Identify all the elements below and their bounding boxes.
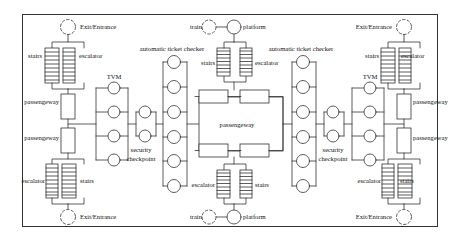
label-stairs-left-bottom: stairs: [80, 177, 94, 184]
escalator-left-bottom: [46, 164, 58, 198]
label-security-right-line1: security: [323, 146, 345, 153]
label-passengeway-left-bottom: passengeway: [24, 134, 59, 141]
label-stairs-center-bottom: stairs: [255, 181, 269, 188]
label-stairs-left-top: stairs: [28, 52, 42, 59]
escalator-left-top: [63, 48, 75, 83]
tvm-unit-left-1: [108, 82, 120, 94]
train-node-top: [202, 20, 216, 34]
label-security-left-line1: security: [131, 146, 153, 153]
checker-unit-left-6: [168, 180, 181, 193]
tvm-unit-left-2: [108, 106, 120, 118]
label-escalator-center-bottom: escalator: [192, 181, 216, 188]
checker-unit-right-6: [297, 180, 310, 193]
label-escalator-right-bottom: escalator: [358, 177, 382, 184]
tvm-unit-right-1: [364, 82, 376, 94]
label-exit-entrance-right-top: Exit/Entrance: [356, 23, 392, 30]
checker-unit-right-2: [297, 81, 310, 94]
passengeway-left-top: [61, 94, 75, 119]
security-unit-left-2: [139, 130, 151, 142]
tvm-unit-right-2: [364, 106, 376, 118]
label-checker-left: automatic ticket checker: [140, 45, 205, 52]
tvm-unit-left-3: [108, 130, 120, 142]
checker-unit-left-1: [168, 56, 181, 69]
label-exit-entrance-right-bottom: Exit/Entrance: [356, 213, 392, 220]
checker-unit-right-1: [297, 56, 310, 69]
checker-unit-left-4: [168, 131, 181, 144]
label-checker-right: automatic ticket checker: [269, 45, 334, 52]
station-topology-svg: Exit/Entrance stairs escalator passengew…: [0, 0, 460, 241]
label-passengeway-right-top: passengeway: [413, 98, 448, 105]
label-train-top: train: [190, 23, 203, 30]
label-stairs-right-top: stairs: [365, 52, 379, 59]
exit-entrance-node-left-top: [61, 20, 76, 35]
label-security-right-line2: checkpoint: [319, 155, 348, 162]
checker-unit-left-3: [168, 106, 181, 119]
checker-unit-left-2: [168, 81, 181, 94]
label-escalator-center-top: escalator: [255, 59, 279, 66]
exit-entrance-node-left-bottom: [61, 210, 76, 225]
checker-unit-right-3: [297, 106, 310, 119]
platform-node-bottom: [227, 210, 241, 224]
label-security-left-line2: checkpoint: [127, 155, 156, 162]
stairs-right-top: [381, 48, 395, 83]
diagram-canvas: Exit/Entrance stairs escalator passengew…: [0, 0, 460, 241]
security-unit-left-1: [139, 106, 151, 118]
label-escalator-left-top: escalator: [79, 52, 103, 59]
label-exit-entrance-left-bottom: Exit/Entrance: [80, 213, 116, 220]
platform-node-top: [227, 20, 241, 34]
train-node-bottom: [202, 210, 216, 224]
passengeway-center-box-top-left: [199, 90, 228, 103]
stairs-left-top: [45, 48, 59, 83]
label-passengeway-left-top: passengeway: [24, 98, 59, 105]
stairs-left-bottom: [62, 164, 76, 198]
label-escalator-left-bottom: escalator: [22, 177, 46, 184]
tvm-unit-right-4: [364, 154, 376, 166]
label-stairs-center-top: stairs: [201, 59, 215, 66]
exit-entrance-node-right-top: [397, 20, 412, 35]
escalator-right-bottom: [382, 164, 394, 198]
exit-entrance-node-right-bottom: [397, 210, 412, 225]
passengeway-center-box-top-right: [240, 90, 269, 103]
checker-unit-left-5: [168, 155, 181, 168]
security-unit-right-1: [327, 106, 339, 118]
tvm-unit-left-4: [108, 154, 120, 166]
label-tvm-left: TVM: [107, 73, 122, 80]
security-unit-right-2: [327, 130, 339, 142]
label-passengeway-right-bottom: passengeway: [413, 134, 448, 141]
label-train-bottom: train: [190, 213, 203, 220]
label-escalator-right-top: escalator: [401, 52, 425, 59]
label-platform-top: platform: [243, 23, 267, 30]
label-exit-entrance-left-top: Exit/Entrance: [80, 23, 116, 30]
label-passengeway-center: passengeway: [220, 121, 255, 128]
checker-unit-right-4: [297, 131, 310, 144]
label-platform-bottom: platform: [243, 213, 267, 220]
passengeway-center-box-bottom-right: [240, 144, 269, 157]
passengeway-left-bottom: [61, 128, 75, 153]
label-stairs-right-bottom: stairs: [400, 177, 414, 184]
label-tvm-right: TVM: [363, 73, 378, 80]
passengeway-center-box-bottom-left: [199, 144, 228, 157]
tvm-unit-right-3: [364, 130, 376, 142]
checker-unit-right-5: [297, 155, 310, 168]
passengeway-right-top: [397, 94, 411, 119]
passengeway-right-bottom: [397, 128, 411, 153]
